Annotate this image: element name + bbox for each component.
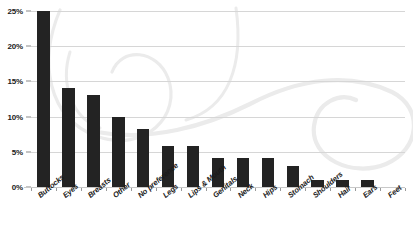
bar — [137, 129, 150, 187]
bar — [62, 88, 75, 187]
y-axis-tick-label: 5% — [12, 147, 23, 156]
y-axis-tick-label: 0% — [12, 183, 23, 192]
x-axis-tick-mark — [230, 188, 231, 191]
x-axis-tick-mark — [106, 188, 107, 191]
y-axis-tick-label: 20% — [8, 42, 23, 51]
bars-layer — [31, 11, 405, 187]
bar — [87, 95, 100, 187]
x-axis-tick-mark — [156, 188, 157, 191]
bar — [187, 146, 200, 187]
x-axis-tick-mark — [380, 188, 381, 191]
y-axis: 0%5%10%15%20%25% — [0, 0, 31, 198]
x-axis-tick-mark — [255, 188, 256, 191]
bar — [37, 11, 50, 187]
x-axis-tick-mark — [355, 188, 356, 191]
x-axis-tick-mark — [81, 188, 82, 191]
x-axis-tick-mark — [31, 188, 32, 191]
x-axis-tick-mark — [280, 188, 281, 191]
bar — [112, 117, 125, 187]
x-axis-tick-mark — [405, 188, 406, 191]
x-axis-labels: ButtocksEyesBreastsOtherNo preferenceLeg… — [31, 188, 405, 239]
x-axis-tick-mark — [131, 188, 132, 191]
x-axis-tick-mark — [305, 188, 306, 191]
y-axis-tick-label: 25% — [8, 7, 23, 16]
bar-chart: 0%5%10%15%20%25% ButtocksEyesBreastsOthe… — [0, 0, 413, 239]
x-axis-tick-mark — [206, 188, 207, 191]
x-axis-tick-mark — [330, 188, 331, 191]
y-axis-tick-label: 15% — [8, 77, 23, 86]
x-axis-tick-mark — [56, 188, 57, 191]
y-axis-tick-label: 10% — [8, 112, 23, 121]
x-axis-tick-mark — [181, 188, 182, 191]
